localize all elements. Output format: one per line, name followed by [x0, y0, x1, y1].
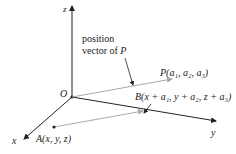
annotation-line2-text: vector of — [82, 45, 120, 56]
origin-label: O — [60, 88, 67, 99]
annotation-pointer — [125, 58, 133, 85]
y-axis-label: y — [210, 127, 216, 138]
point-p-coords: (a₁, a₂, a₃) — [166, 67, 209, 79]
point-b-pointer — [144, 104, 151, 113]
x-axis-label: x — [11, 135, 17, 146]
point-a-dot — [52, 125, 55, 128]
point-p-name: P — [159, 67, 166, 78]
point-b-coords: (x + a₁, y + a₂, z + a₃) — [141, 91, 232, 103]
z-axis-label: z — [62, 4, 67, 14]
point-b-label: B(x + a₁, y + a₂, z + a₃) — [135, 91, 232, 103]
vector-diagram: z y x O position vector of P P(a₁, a₂, a… — [0, 0, 236, 154]
annotation-line2-var: P — [119, 45, 126, 56]
annotation-line1: position — [82, 33, 114, 44]
annotation-line2: vector of P — [82, 45, 126, 56]
vector-ab — [54, 111, 143, 127]
point-p-label: P(a₁, a₂, a₃) — [159, 67, 209, 79]
point-a-label: A(x, y, z) — [35, 133, 72, 145]
point-a-coords: (x, y, z) — [42, 133, 72, 145]
